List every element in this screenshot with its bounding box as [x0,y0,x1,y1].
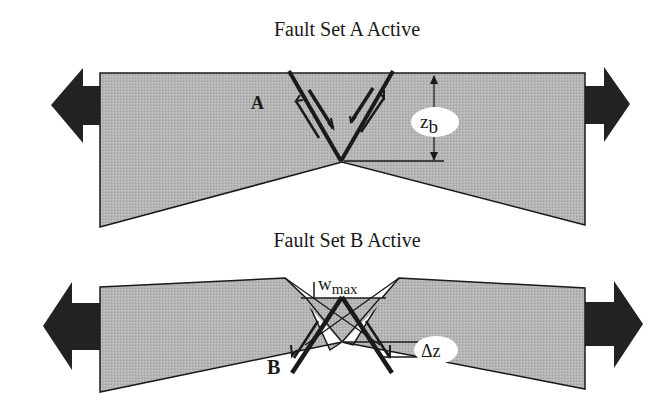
crust-block-b-right [342,278,585,389]
crust-block-b-left [100,278,342,392]
extension-arrow-right-icon [584,67,630,142]
crust-block-a [100,73,585,227]
extension-arrow-left-icon [43,282,100,370]
panel-a: A zb [51,67,630,227]
fault-diagram: A zb [0,0,666,406]
extension-arrow-right-icon [585,281,643,368]
fault-label-b: B [267,356,280,378]
panel-b: B wmax Δz [43,273,643,392]
wmax-label: wmax [318,273,358,297]
extension-arrow-left-icon [51,68,100,143]
fault-label-a: A [251,93,264,113]
delta-z-label: Δz [421,341,441,361]
